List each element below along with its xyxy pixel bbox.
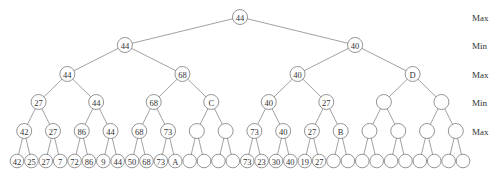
- leaf-node: 23: [255, 154, 269, 168]
- leaf-node: [442, 154, 456, 168]
- node-value: 27: [42, 157, 51, 167]
- leaf-node: 19: [298, 154, 312, 168]
- node-value: 44: [63, 70, 72, 80]
- node-circle: [456, 154, 470, 168]
- node-value: 68: [135, 127, 144, 137]
- node-circle: [384, 154, 398, 168]
- leaf-node: 7: [53, 154, 67, 168]
- leaf-node: 50: [125, 154, 139, 168]
- node-value: 68: [142, 157, 151, 167]
- leaf-node: [212, 154, 226, 168]
- node-value: 44: [92, 98, 101, 108]
- node-value: 25: [27, 157, 36, 167]
- node-value: 73: [250, 127, 259, 137]
- node-value: 40: [351, 41, 360, 51]
- node-value: B: [338, 127, 344, 137]
- tree-node: 68: [132, 124, 147, 139]
- leaf-node: 27: [312, 154, 326, 168]
- node-circle: [391, 124, 406, 139]
- tree-node: [448, 124, 463, 139]
- node-value: 44: [106, 127, 115, 137]
- node-value: 42: [20, 127, 29, 137]
- leaf-node: 27: [39, 154, 53, 168]
- node-value: 73: [243, 157, 252, 167]
- level-label-max: Max: [472, 13, 489, 23]
- node-circle: [413, 154, 427, 168]
- tree-node: 42: [17, 124, 32, 139]
- node-value: 86: [77, 127, 86, 137]
- leaf-node: A: [168, 154, 182, 168]
- tree-edge: [125, 17, 240, 45]
- leaf-node: 9: [97, 154, 111, 168]
- tree-edge: [355, 45, 413, 74]
- tree-node: 44: [103, 124, 118, 139]
- node-value: C: [208, 98, 214, 108]
- leaf-node: 73: [240, 154, 254, 168]
- tree-node: 40: [290, 67, 305, 82]
- node-circle: [362, 124, 377, 139]
- node-value: 68: [178, 70, 187, 80]
- node-value: 44: [113, 157, 122, 167]
- node-value: 30: [272, 157, 281, 167]
- tree-node: [434, 95, 449, 110]
- leaf-node: [341, 154, 355, 168]
- node-circle: [197, 154, 211, 168]
- leaf-node: 40: [284, 154, 298, 168]
- tree-node: 44: [117, 38, 132, 53]
- tree-nodes: 444440446840D274468C40274227864468737340…: [10, 10, 470, 168]
- tree-edge: [298, 45, 356, 74]
- node-circle: [427, 154, 441, 168]
- leaf-node: [370, 154, 384, 168]
- tree-node: 27: [31, 95, 46, 110]
- tree-node: B: [333, 124, 348, 139]
- node-value: 68: [149, 98, 158, 108]
- node-value: 73: [164, 127, 173, 137]
- node-value: D: [410, 70, 416, 80]
- level-label-min: Min: [472, 41, 488, 51]
- node-value: 40: [293, 70, 302, 80]
- node-value: 27: [315, 157, 324, 167]
- leaf-node: 25: [25, 154, 39, 168]
- node-circle: [420, 124, 435, 139]
- node-value: 19: [300, 157, 309, 167]
- tree-edge: [67, 45, 125, 74]
- node-circle: [226, 154, 240, 168]
- leaf-node: 30: [269, 154, 283, 168]
- node-value: A: [172, 157, 179, 167]
- node-value: 27: [34, 98, 43, 108]
- tree-node: 86: [74, 124, 89, 139]
- level-label-min: Min: [472, 98, 488, 108]
- node-value: 27: [322, 98, 331, 108]
- leaf-node: [384, 154, 398, 168]
- node-circle: [212, 154, 226, 168]
- tree-node: 44: [89, 95, 104, 110]
- level-labels: MaxMinMaxMinMax: [472, 13, 489, 137]
- tree-edges: [17, 17, 463, 161]
- node-circle: [218, 124, 233, 139]
- leaf-node: 44: [111, 154, 125, 168]
- leaf-node: [413, 154, 427, 168]
- leaf-node: 72: [68, 154, 82, 168]
- node-circle: [341, 154, 355, 168]
- leaf-node: 42: [10, 154, 24, 168]
- tree-node: C: [204, 95, 219, 110]
- node-circle: [370, 154, 384, 168]
- node-circle: [376, 95, 391, 110]
- tree-node: 68: [175, 67, 190, 82]
- leaf-node: [355, 154, 369, 168]
- tree-node: D: [405, 67, 420, 82]
- tree-node: 68: [146, 95, 161, 110]
- tree-node: 27: [304, 124, 319, 139]
- tree-node: 40: [276, 124, 291, 139]
- level-label-max: Max: [472, 70, 489, 80]
- tree-node: 40: [348, 38, 363, 53]
- tree-node: [218, 124, 233, 139]
- node-value: 44: [236, 13, 245, 23]
- node-value: 73: [157, 157, 166, 167]
- leaf-node: [226, 154, 240, 168]
- node-value: 27: [308, 127, 317, 137]
- tree-node: [420, 124, 435, 139]
- tree-edge: [125, 45, 183, 74]
- level-label-max: Max: [472, 127, 489, 137]
- node-value: 44: [121, 41, 130, 51]
